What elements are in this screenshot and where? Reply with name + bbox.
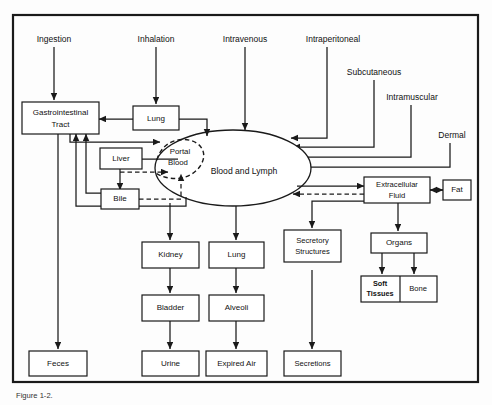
node-extracellular-fluid: Extracellular Fluid [364,177,430,203]
node-label-lung-bottom: Lung [228,250,246,259]
blood-and-lymph-label: Blood and Lymph [211,166,278,176]
node-label-bladder: Bladder [157,303,185,312]
route-label-inhalation: Inhalation [138,34,175,44]
node-liver: Liver [100,148,142,169]
node-gi-tract: Gastrointestinal Tract [22,102,99,134]
node-urine: Urine [142,351,199,376]
node-label-extracellular-fluid-line1: Extracellular [376,180,418,189]
route-label-intramuscular: Intramuscular [386,92,438,102]
node-soft-tissues-bone-group: Soft Tissues Bone [361,276,437,302]
pharmacokinetics-flow-diagram: Ingestion Inhalation Intravenous Intrape… [0,0,492,405]
route-label-dermal: Dermal [438,130,466,140]
node-label-secretory-structures-line1: Secretory [296,236,329,245]
node-expired-air: Expired Air [206,351,267,376]
node-label-secretions: Secretions [295,359,331,368]
node-label-extracellular-fluid-line2: Fluid [389,191,405,200]
node-alveoli: Alveoli [209,295,264,321]
flow-bile-to-gi-tract [86,134,101,193]
node-label-lung-top: Lung [147,114,165,123]
node-kidney: Kidney [142,242,199,268]
node-label-bile: Bile [113,194,127,203]
flow-gi-tract-to-portal-blood [70,134,160,142]
node-label-soft-tissues-line2: Tissues [366,289,393,298]
node-label-soft-tissues-line1: Soft [373,279,388,288]
node-label-gi-tract-line2: Tract [52,120,71,129]
node-feces: Feces [29,351,87,376]
figure-caption: Figure 1-2. [16,391,53,400]
route-label-intraperitoneal: Intraperitoneal [306,34,360,44]
node-label-organs: Organs [386,238,412,247]
node-label-liver: Liver [112,154,130,163]
node-fat: Fat [443,180,471,200]
node-label-fat: Fat [451,185,463,194]
node-lung-bottom: Lung [209,242,264,268]
portal-blood-label-line1: Portal [170,147,191,156]
node-label-bone: Bone [409,284,427,293]
route-label-subcutaneous: Subcutaneous [347,67,401,77]
node-label-alveoli: Alveoli [225,303,249,312]
node-label-kidney: Kidney [158,250,182,259]
node-label-feces: Feces [47,359,69,368]
flow-extracellular-fluid-to-secretory-structures [312,201,364,228]
node-lung-top: Lung [133,106,179,130]
flow-subcutaneous-to-blood [293,80,374,147]
node-label-secretory-structures-line2: Structures [295,247,330,256]
node-secretions: Secretions [284,351,341,376]
figure-root: Ingestion Inhalation Intravenous Intrape… [0,0,492,405]
node-secretory-structures: Secretory Structures [284,230,341,262]
flow-intramuscular-to-blood [297,105,411,157]
node-label-gi-tract-line1: Gastrointestinal [33,108,89,117]
node-bladder: Bladder [142,295,199,321]
node-bile: Bile [101,189,139,209]
node-label-expired-air: Expired Air [217,359,256,368]
flow-intraperitoneal-to-blood [291,47,327,138]
route-label-ingestion: Ingestion [37,34,72,44]
route-label-intravenous: Intravenous [223,34,267,44]
node-organs: Organs [371,233,427,253]
node-label-urine: Urine [161,359,181,368]
portal-blood-label-line2: Blood [168,158,188,167]
